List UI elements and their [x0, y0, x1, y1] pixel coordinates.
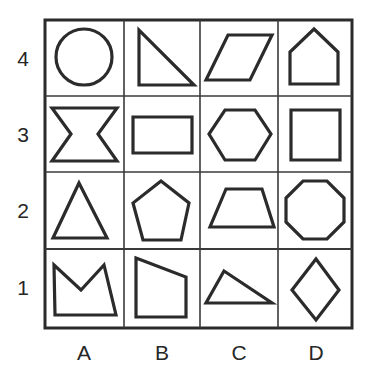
grid-cell-C1[interactable] — [201, 250, 277, 327]
shape-grid-figure: 4 3 2 1 A B C D — [0, 0, 373, 379]
row-label-3: 3 — [8, 124, 38, 145]
grid-cell-D4[interactable] — [279, 21, 351, 95]
grid-cell-D2[interactable] — [279, 173, 351, 248]
grid-cell-B2[interactable] — [125, 173, 199, 248]
grid-cell-A3[interactable] — [46, 97, 123, 171]
column-label-a: A — [64, 342, 104, 363]
grid-cell-C2[interactable] — [201, 173, 277, 248]
grid-cell-D3[interactable] — [279, 97, 351, 171]
column-label-d: D — [296, 342, 336, 363]
column-label-c: C — [219, 342, 259, 363]
grid-cell-C3[interactable] — [201, 97, 277, 171]
row-label-4: 4 — [8, 48, 38, 69]
grid-cell-A1[interactable] — [46, 250, 123, 327]
grid-cell-A4[interactable] — [46, 21, 123, 95]
grid-cell-A2[interactable] — [46, 173, 123, 248]
grid-cell-B1[interactable] — [125, 250, 199, 327]
row-label-1: 1 — [8, 277, 38, 298]
column-label-b: B — [142, 342, 182, 363]
grid-cell-B4[interactable] — [125, 21, 199, 95]
grid-cell-C4[interactable] — [201, 21, 277, 95]
row-label-2: 2 — [8, 200, 38, 221]
grid-cell-B3[interactable] — [125, 97, 199, 171]
grid-cell-D1[interactable] — [279, 250, 351, 327]
